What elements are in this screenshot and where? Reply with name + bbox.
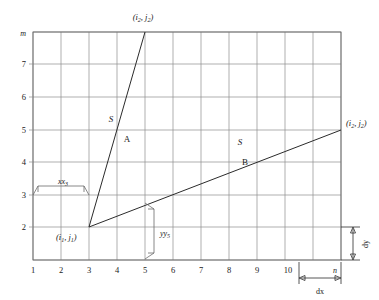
y-tick-marks <box>29 64 33 227</box>
x-tick-6: 6 <box>171 265 175 275</box>
origin-point-label: (i1, j1) <box>56 232 77 243</box>
y-tick-6: 6 <box>22 92 26 102</box>
grid-horizontal-lines <box>33 32 341 260</box>
segment-label-s-b: S <box>238 137 243 147</box>
coordinate-grid-diagram: 7 6 5 4 3 2 m 1 2 3 4 5 6 7 8 9 10 n <box>0 0 379 300</box>
figure-canvas: 7 6 5 4 3 2 m 1 2 3 4 5 6 7 8 9 10 n <box>0 0 379 300</box>
segment-label-s-a: S <box>109 114 114 124</box>
x-tick-4: 4 <box>115 265 120 275</box>
ray-line-b <box>89 130 341 227</box>
x-tick-1: 1 <box>31 265 35 275</box>
y-tick-4: 4 <box>22 157 27 167</box>
case-label-b: B <box>242 157 248 167</box>
endpoint-label-a: (i2, j2) <box>133 12 154 23</box>
y-tick-3: 3 <box>22 190 26 200</box>
brace-label-yy5: yy5 <box>159 229 170 239</box>
y-tick-2: 2 <box>22 222 26 232</box>
x-tick-8: 8 <box>227 265 231 275</box>
grid-vertical-lines <box>33 32 341 260</box>
brace-yy5 <box>145 203 154 259</box>
dimension-dy <box>341 227 360 260</box>
y-tick-5: 5 <box>22 125 26 135</box>
x-tick-3: 3 <box>87 265 91 275</box>
dimension-label-dx: dx <box>316 287 324 296</box>
y-axis-name: m <box>20 29 26 38</box>
case-label-a: A <box>124 134 131 144</box>
x-tick-5: 5 <box>143 265 147 275</box>
x-tick-10: 10 <box>284 265 293 275</box>
x-tick-9: 9 <box>255 265 259 275</box>
x-tick-2: 2 <box>59 265 63 275</box>
y-tick-7: 7 <box>22 59 26 69</box>
endpoint-label-b: (i2, j2) <box>346 118 367 129</box>
plot-frame <box>33 32 341 260</box>
dimension-label-dy: dy <box>361 240 370 248</box>
x-tick-7: 7 <box>199 265 203 275</box>
x-axis-name: n <box>333 266 337 275</box>
brace-label-xx3: xx3 <box>57 177 68 187</box>
